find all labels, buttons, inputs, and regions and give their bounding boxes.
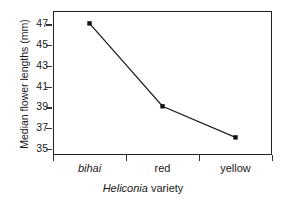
y-axis-tick-label: 41 — [36, 81, 48, 91]
x-axis-tick-mark — [53, 155, 54, 161]
y-axis-tick-mark — [46, 45, 52, 46]
x-axis-title-plain: variety — [148, 182, 183, 194]
x-axis-tick-label: red — [155, 162, 171, 174]
y-axis-tick-label: 45 — [36, 39, 48, 49]
x-axis-tick-mark — [272, 155, 273, 161]
x-axis-tick-mark — [199, 155, 200, 161]
x-axis-title: Heliconia variety — [0, 182, 286, 194]
y-axis-tick-label: 43 — [36, 60, 48, 70]
y-axis-tick-mark — [46, 87, 52, 88]
y-axis-tick-mark — [46, 149, 52, 150]
x-axis-title-italic: Heliconia — [103, 182, 148, 194]
y-axis-tick-mark — [46, 107, 52, 108]
x-axis-tick-label: bihai — [78, 162, 101, 174]
y-axis-tick-label: 39 — [36, 101, 48, 111]
y-axis-tick-mark — [46, 66, 52, 67]
y-axis-tick-label: 37 — [36, 122, 48, 132]
x-axis-tick-mark — [126, 155, 127, 161]
plot-area — [53, 11, 272, 155]
y-axis-tick-label: 35 — [36, 143, 48, 153]
x-axis-tick-label: yellow — [220, 162, 251, 174]
y-axis-tick-mark — [46, 128, 52, 129]
y-axis-tick-labels: 47454341393735 — [22, 0, 48, 203]
chart-figure: Median flower lengths (mm) 4745434139373… — [0, 0, 286, 203]
y-axis-tick-mark — [46, 24, 52, 25]
y-axis-tick-label: 47 — [36, 18, 48, 28]
